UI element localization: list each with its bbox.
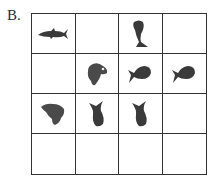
fish-vertical-tail-up-icon <box>131 100 149 128</box>
symbol-grid <box>31 13 207 175</box>
cell-r2-c1[interactable] <box>32 54 76 94</box>
bass-head-side-icon <box>40 102 66 126</box>
cell-r1-c3[interactable] <box>119 14 163 54</box>
cell-r3-c3[interactable] <box>119 94 163 134</box>
cell-r3-c2[interactable] <box>76 94 120 134</box>
whale-icon <box>171 64 197 84</box>
fish-vertical-tail-up-icon <box>88 100 106 128</box>
shark-icon <box>37 28 69 40</box>
cell-r1-c4[interactable] <box>163 14 207 54</box>
cell-r1-c2[interactable] <box>76 14 120 54</box>
cell-r1-c1[interactable] <box>32 14 76 54</box>
cell-r2-c2[interactable] <box>76 54 120 94</box>
cell-r3-c4[interactable] <box>163 94 207 134</box>
bass-head-icon <box>85 61 109 87</box>
cell-r4-c4[interactable] <box>163 134 207 174</box>
cell-r2-c4[interactable] <box>163 54 207 94</box>
cell-r4-c2[interactable] <box>76 134 120 174</box>
cell-r2-c3[interactable] <box>119 54 163 94</box>
whale-icon <box>127 64 153 84</box>
cell-r4-c3[interactable] <box>119 134 163 174</box>
figure-label: B. <box>7 7 21 24</box>
cell-r3-c1[interactable] <box>32 94 76 134</box>
fish-vertical-icon <box>130 19 150 49</box>
cell-r4-c1[interactable] <box>32 134 76 174</box>
